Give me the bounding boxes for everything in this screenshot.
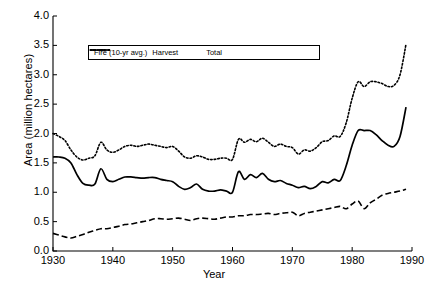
legend: Fire (10-yr avg.)HarvestTotal: [88, 45, 320, 60]
x-tick-label: 1990: [382, 254, 428, 266]
legend-item-harvest: Harvest: [152, 48, 180, 57]
x-tick-label: 1980: [322, 254, 382, 266]
plot-canvas: [0, 0, 428, 288]
x-axis-label: Year: [0, 268, 428, 280]
series-line-harvest: [53, 189, 406, 238]
x-tick-label: 1930: [23, 254, 83, 266]
chart-figure: Area (million hectares) 0.00.51.01.52.02…: [0, 0, 428, 288]
x-tick-label: 1940: [83, 254, 143, 266]
legend-label: Harvest: [152, 48, 180, 57]
series-line-fire-10-yr-avg: [53, 107, 406, 193]
x-tick-label: 1970: [262, 254, 322, 266]
legend-swatch-dotted: [89, 46, 111, 54]
x-tick-label: 1950: [143, 254, 203, 266]
legend-label: Total: [206, 48, 224, 57]
legend-item-total: Total: [206, 48, 224, 57]
x-tick-label: 1960: [203, 254, 263, 266]
